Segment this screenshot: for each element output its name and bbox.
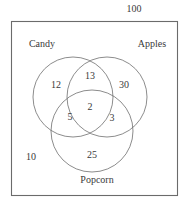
region-value-outside: 10	[26, 151, 36, 162]
region-value-all-three: 2	[88, 101, 93, 112]
venn-diagram-screenshot: 100 Candy Apples Popcorn 12 13 30 5 2 3 …	[0, 0, 190, 209]
circle-apples	[67, 57, 147, 137]
circle-candy	[33, 57, 113, 137]
set-label-apples: Apples	[138, 38, 166, 49]
universal-set-count: 100	[127, 3, 142, 14]
region-value-apples-only: 30	[119, 79, 129, 90]
region-value-apples-popcorn: 3	[110, 112, 115, 123]
region-value-candy-only: 12	[51, 79, 61, 90]
region-value-popcorn-only: 25	[87, 149, 97, 160]
region-value-candy-apples: 13	[85, 70, 95, 81]
venn-diagram-canvas: 100 Candy Apples Popcorn 12 13 30 5 2 3 …	[0, 0, 190, 209]
set-label-candy: Candy	[29, 38, 55, 49]
region-value-candy-popcorn: 5	[68, 111, 73, 122]
set-label-popcorn: Popcorn	[80, 174, 113, 185]
